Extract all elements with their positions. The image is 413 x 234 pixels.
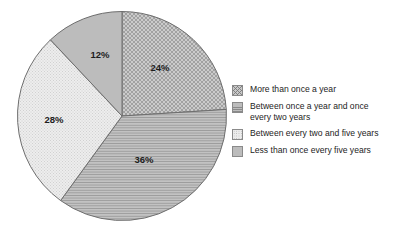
pie-slice-label-12: 12% [90,49,110,60]
pie-slice-label-28: 28% [44,114,64,125]
chart-legend: More than once a year Between once a yea… [232,84,412,162]
pie-slice-label-36: 36% [134,154,154,165]
legend-item-label: Between once a year and once every two y… [250,101,369,123]
pie-slice-label-24: 24% [150,62,170,73]
legend-item-label: Less than once every five years [250,145,371,156]
pie-chart-figure: 24% 36% 28% 12% More than once a year Be… [0,0,413,234]
pie-slice-more-than-once-a-year[interactable] [122,12,226,117]
legend-item-more-than-once-a-year[interactable]: More than once a year [232,84,412,96]
legend-swatch-icon-horizontal-lines [232,102,243,113]
legend-swatch-icon-fine-dots [232,129,243,140]
legend-item-once-a-year-to-two-years[interactable]: Between once a year and once every two y… [232,101,412,123]
legend-swatch-icon-solid [232,146,243,157]
legend-swatch-icon-crosshatch [232,85,243,96]
legend-item-less-than-once-every-five-years[interactable]: Less than once every five years [232,145,412,157]
legend-item-label: Between every two and five years [250,128,379,139]
legend-item-two-to-five-years[interactable]: Between every two and five years [232,128,412,140]
legend-item-label: More than once a year [250,84,336,95]
